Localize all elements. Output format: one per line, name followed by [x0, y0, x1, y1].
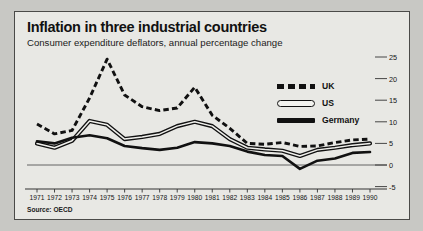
x-axis-label: 1981 [205, 194, 220, 201]
us-line-swatch-icon [277, 100, 315, 107]
x-axis-label: 1979 [170, 194, 185, 201]
germany-line-swatch-icon [277, 118, 315, 124]
legend-item-germany: Germany [277, 115, 359, 125]
x-axis-label: 1982 [222, 194, 237, 201]
x-axis-label: 1972 [47, 194, 62, 201]
uk-line-swatch-icon [277, 84, 315, 89]
x-axis-label: 1983 [240, 194, 255, 201]
x-axis-label: 1987 [310, 194, 325, 201]
x-axis-label: 1985 [275, 194, 290, 201]
legend-item-us: US [277, 98, 334, 108]
x-axis-label: 1980 [187, 194, 202, 201]
legend-label-uk: UK [322, 81, 334, 91]
x-axis-label: 1986 [292, 194, 307, 201]
y-axis-label: 25 [389, 53, 397, 62]
x-axis-label: 1971 [30, 194, 45, 201]
chart-figure: Inflation in three industrial countries … [14, 11, 410, 220]
legend-label-us: US [322, 98, 334, 108]
x-axis-label: 1988 [327, 194, 342, 201]
x-axis-label: 1975 [100, 194, 115, 201]
y-axis-label: 20 [389, 74, 397, 83]
y-axis-label: 10 [389, 117, 397, 126]
x-axis-label: 1973 [65, 194, 80, 201]
source-note: Source: OECD [27, 206, 72, 213]
x-axis-label: 1990 [363, 194, 378, 201]
y-axis-label: 15 [389, 96, 397, 105]
legend-label-germany: Germany [322, 115, 359, 125]
x-axis-label: 1978 [152, 194, 167, 201]
legend-item-uk: UK [277, 81, 334, 91]
x-axis-label: 1984 [257, 194, 272, 201]
y-axis-label: 0 [389, 161, 393, 170]
y-axis-label: 5 [389, 139, 393, 148]
x-axis-label: 1976 [117, 194, 132, 201]
x-axis-label: 1989 [345, 194, 360, 201]
x-axis-label: 1974 [82, 194, 97, 201]
x-axis-label: 1977 [135, 194, 150, 201]
y-axis-label: -5 [389, 182, 396, 191]
